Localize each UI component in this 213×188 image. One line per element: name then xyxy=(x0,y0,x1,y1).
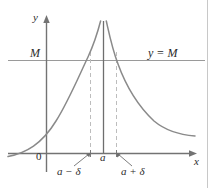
asymptote-figure: y x M y = M 0 a a − δ a + δ xyxy=(0,0,213,188)
y-axis-label: y xyxy=(33,12,38,23)
m-value-label: M xyxy=(30,47,40,59)
curve-left-branch xyxy=(8,21,101,157)
curve-right-branch xyxy=(106,21,195,136)
a-plus-delta-label: a + δ xyxy=(121,166,145,177)
origin-label: 0 xyxy=(36,151,42,162)
x-axis-label: x xyxy=(194,156,199,167)
figure-canvas xyxy=(0,0,213,188)
y-axis-arrowhead xyxy=(43,15,49,23)
a-tick-label: a xyxy=(100,152,106,163)
a-minus-delta-label: a − δ xyxy=(57,166,81,177)
y-equals-m-label: y = M xyxy=(148,47,177,59)
